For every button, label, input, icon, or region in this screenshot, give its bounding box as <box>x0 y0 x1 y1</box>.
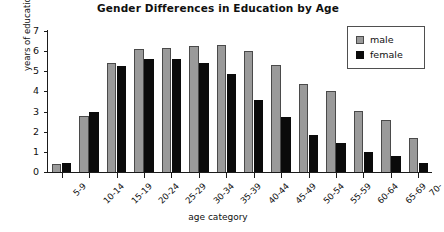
y-tick-label: 7 <box>19 25 39 36</box>
x-tick-mark <box>254 173 255 178</box>
y-tick-mark <box>44 132 48 133</box>
x-tick-mark <box>281 173 282 178</box>
bar-female-20-24 <box>144 59 154 172</box>
bar-male-65-69 <box>381 120 391 172</box>
x-tick-mark <box>89 173 90 178</box>
x-axis-title: age category <box>0 212 436 222</box>
y-tick-label: 6 <box>19 45 39 56</box>
bar-group <box>134 31 154 172</box>
x-axis-line <box>47 172 432 173</box>
bar-group <box>107 31 127 172</box>
bar-male-15-19 <box>107 63 117 172</box>
bar-female-60-64 <box>364 152 374 172</box>
bar-male-70- <box>409 138 419 172</box>
x-tick-mark <box>226 173 227 178</box>
bar-male-60-64 <box>354 111 364 172</box>
bar-female-65-69 <box>391 156 401 172</box>
y-tick-mark <box>44 31 48 32</box>
x-tick-mark <box>144 173 145 178</box>
x-tick-label: 40-44 <box>266 181 291 206</box>
x-tick-mark <box>171 173 172 178</box>
bar-male-45-49 <box>271 65 281 172</box>
x-tick-label: 15-19 <box>129 181 154 206</box>
bar-group <box>52 31 72 172</box>
y-tick-mark <box>44 152 48 153</box>
x-tick-label: 10-14 <box>101 181 126 206</box>
bar-male-55-59 <box>326 91 336 172</box>
legend-item-male[interactable]: male <box>356 32 418 47</box>
bar-male-50-54 <box>299 84 309 172</box>
bar-male-10-14 <box>79 116 89 172</box>
x-tick-mark <box>391 173 392 178</box>
x-tick-label: 20-24 <box>156 181 181 206</box>
x-tick-mark <box>117 173 118 178</box>
bar-female-50-54 <box>309 135 319 172</box>
x-tick-label: 30-34 <box>211 181 236 206</box>
y-tick-label: 5 <box>19 65 39 76</box>
bar-male-5-9 <box>52 164 62 172</box>
bar-female-55-59 <box>336 143 346 172</box>
x-tick-label: 70- <box>427 181 444 198</box>
y-tick-label: 2 <box>19 126 39 137</box>
x-tick-mark <box>62 173 63 178</box>
y-tick-label: 4 <box>19 85 39 96</box>
y-tick-mark <box>44 51 48 52</box>
y-tick-label: 3 <box>19 106 39 117</box>
y-tick-mark <box>44 172 48 173</box>
bar-female-15-19 <box>117 66 127 172</box>
y-tick-label: 0 <box>19 166 39 177</box>
x-tick-label: 50-54 <box>321 181 346 206</box>
legend: malefemale <box>347 26 425 69</box>
x-tick-label: 5-9 <box>71 181 88 198</box>
y-tick-label: 1 <box>19 146 39 157</box>
x-tick-mark <box>418 173 419 178</box>
bar-group <box>189 31 209 172</box>
bar-group <box>271 31 291 172</box>
bar-female-5-9 <box>62 163 72 172</box>
bar-female-35-39 <box>227 74 237 172</box>
bar-group <box>162 31 182 172</box>
bar-male-35-39 <box>217 45 227 172</box>
x-tick-mark <box>336 173 337 178</box>
bar-female-45-49 <box>281 117 291 172</box>
x-tick-label: 45-49 <box>293 181 318 206</box>
y-tick-mark <box>44 71 48 72</box>
bar-group <box>244 31 264 172</box>
legend-label-female: female <box>370 49 403 60</box>
legend-swatch-female <box>356 51 364 59</box>
bar-male-25-29 <box>162 48 172 172</box>
legend-label-male: male <box>370 34 394 45</box>
x-tick-label: 65-69 <box>403 181 428 206</box>
x-tick-mark <box>363 173 364 178</box>
bar-female-25-29 <box>172 59 182 172</box>
y-tick-mark <box>44 91 48 92</box>
x-tick-mark <box>199 173 200 178</box>
bar-female-10-14 <box>89 112 99 172</box>
bar-male-40-44 <box>244 51 254 172</box>
bar-female-70- <box>419 163 429 172</box>
bar-group <box>217 31 237 172</box>
bar-group <box>326 31 346 172</box>
bar-group <box>79 31 99 172</box>
x-tick-label: 25-29 <box>184 181 209 206</box>
bar-female-40-44 <box>254 100 264 173</box>
bar-male-30-34 <box>189 46 199 172</box>
legend-item-female[interactable]: female <box>356 47 418 62</box>
bar-male-20-24 <box>134 49 144 172</box>
x-tick-label: 35-39 <box>239 181 264 206</box>
x-tick-label: 55-59 <box>348 181 373 206</box>
legend-swatch-male <box>356 36 364 44</box>
bar-group <box>299 31 319 172</box>
y-tick-mark <box>44 112 48 113</box>
x-tick-mark <box>309 173 310 178</box>
chart-title: Gender Differences in Education by Age <box>0 2 436 14</box>
x-tick-label: 60-64 <box>376 181 401 206</box>
bar-female-30-34 <box>199 63 209 172</box>
